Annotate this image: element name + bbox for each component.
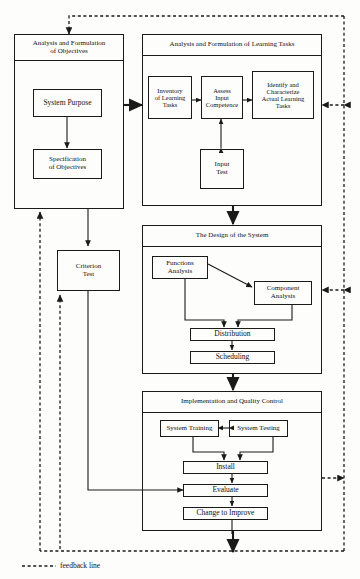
box-scheduling[interactable]: Scheduling — [190, 351, 275, 364]
box-label-line: Actual Learning — [262, 95, 304, 102]
panel-analysis-and-formulation-of-objectives: Analysis and Formulation of Objectives — [14, 34, 124, 209]
box-label-line: Competence — [206, 101, 239, 108]
legend-label-text: feedback line — [60, 561, 100, 570]
box-install[interactable]: Install — [183, 461, 268, 474]
box-component-analysis[interactable]: Component Analysis — [254, 281, 312, 305]
box-label: System Testing — [237, 425, 280, 433]
box-label: Distribution — [214, 330, 250, 338]
box-label-line: Analysis — [267, 293, 300, 301]
box-label-line: Tasks — [155, 101, 186, 108]
box-label-line: Test — [76, 271, 101, 279]
panel-title-learning-tasks: Analysis and Formulation of Learning Tas… — [143, 35, 321, 56]
box-label-line: Analysis — [166, 268, 194, 276]
box-label: System Training — [166, 425, 212, 433]
box-label: Evaluate — [212, 486, 238, 494]
box-assess-input-competence[interactable]: Assess Input Competence — [201, 76, 243, 119]
box-label: Scheduling — [216, 353, 250, 361]
box-label-line: Inventory — [155, 87, 186, 94]
panel-title-line: of Objectives — [33, 48, 106, 56]
box-label-line: of Objectives — [49, 164, 87, 172]
box-label: Change to Improve — [197, 509, 255, 517]
panel-title-line: Analysis and Formulation of Learning Tas… — [170, 41, 295, 49]
box-evaluate[interactable]: Evaluate — [183, 484, 268, 497]
panel-title-implementation: Implementation and Quality Control — [143, 392, 321, 413]
box-label-line: Assess — [206, 87, 239, 94]
box-label-line: of Learning — [155, 94, 186, 101]
box-specification-of-objectives[interactable]: Specification of Objectives — [33, 149, 102, 179]
box-functions-analysis[interactable]: Functions Analysis — [152, 256, 208, 279]
box-label-line: Characterize — [262, 88, 304, 95]
feedback-top-to-objectives — [69, 16, 344, 34]
box-label-line: Input — [206, 94, 239, 101]
box-label: System Purpose — [43, 99, 91, 107]
box-label: Install — [216, 463, 235, 471]
panel-title-design-of-system: The Design of the System — [143, 226, 321, 247]
box-criterion-test[interactable]: Criterion Test — [57, 250, 120, 291]
box-label-line: Identify and — [262, 81, 304, 88]
panel-title-line: Implementation and Quality Control — [181, 398, 283, 406]
box-change-to-improve[interactable]: Change to Improve — [183, 507, 268, 520]
box-label-line: Tasks — [262, 102, 304, 109]
box-system-testing[interactable]: System Testing — [229, 420, 288, 437]
diagram-canvas: Analysis and Formulation of Objectives S… — [0, 0, 360, 579]
panel-title-line: The Design of the System — [196, 232, 269, 240]
box-inventory-of-learning-tasks[interactable]: Inventory of Learning Tasks — [148, 76, 192, 119]
box-distribution[interactable]: Distribution — [190, 328, 275, 341]
box-input-test[interactable]: Input Test — [200, 149, 244, 189]
legend-feedback-line-label: feedback line — [60, 561, 100, 570]
panel-title-analysis-objectives: Analysis and Formulation of Objectives — [15, 35, 123, 61]
box-label-line: Test — [215, 169, 230, 177]
box-system-training[interactable]: System Training — [160, 420, 219, 437]
box-system-purpose[interactable]: System Purpose — [33, 89, 102, 117]
box-identify-and-characterize-actual-learning-tasks[interactable]: Identify and Characterize Actual Learnin… — [252, 71, 314, 119]
